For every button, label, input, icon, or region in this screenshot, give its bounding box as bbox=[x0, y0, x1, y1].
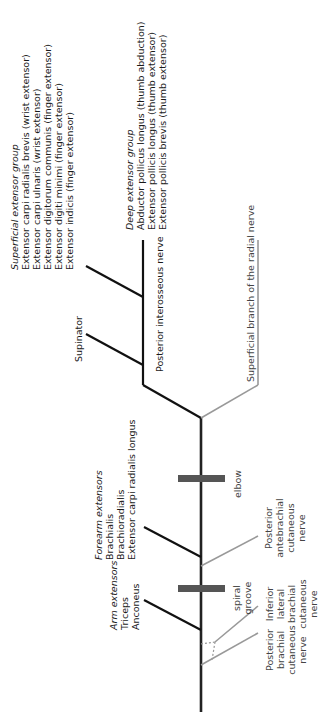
svg-text:groove: groove bbox=[242, 581, 253, 614]
forearm-extensors-label: Forearm extensors Brachialis Brachioradi… bbox=[93, 419, 137, 560]
superficial-group-branch bbox=[86, 266, 143, 297]
svg-text:Extensor pollicis brevis (thum: Extensor pollicis brevis (thumb extensor… bbox=[157, 35, 168, 230]
superficial-branch-label: Superficial branch of the radial nerve bbox=[245, 205, 256, 382]
posterior-antebrachial-cutaneous-label: Posterior antebrachial cutaneous nerve bbox=[263, 498, 307, 558]
svg-text:Triceps: Triceps bbox=[119, 597, 130, 631]
deep-branch-line bbox=[143, 385, 201, 418]
svg-text:Extensor digitorum communis (f: Extensor digitorum communis (finger exte… bbox=[42, 44, 53, 270]
svg-text:Superficial extensor group: Superficial extensor group bbox=[9, 144, 20, 270]
spiral-groove-label: spiral groove bbox=[231, 581, 253, 614]
svg-text:cutaneous: cutaneous bbox=[297, 579, 308, 628]
svg-text:Abductor pollicus longus (thu: Abductor pollicus longus (thumb abductio… bbox=[135, 21, 146, 230]
superficial-extensor-group-label: Superficial extensor group Extensor carp… bbox=[9, 44, 75, 270]
svg-text:Extensor pollicis longus (thum: Extensor pollicis longus (thumb extensor… bbox=[146, 32, 157, 230]
dashed-connector-h bbox=[201, 642, 215, 644]
svg-text:Forearm extensors: Forearm extensors bbox=[93, 470, 104, 560]
posterior-antebrachial-cutaneous-line bbox=[201, 536, 258, 566]
svg-text:Posterior: Posterior bbox=[263, 507, 274, 549]
svg-text:Extensor indicis (finger exten: Extensor indicis (finger extensor) bbox=[64, 112, 75, 270]
elbow-label: elbow bbox=[232, 470, 243, 498]
posterior-brachial-cutaneous-label: Posterior brachial cutaneous nerve bbox=[264, 625, 308, 674]
svg-text:lateral: lateral bbox=[275, 589, 286, 619]
svg-text:nerve: nerve bbox=[296, 514, 307, 541]
svg-text:cutaneous: cutaneous bbox=[286, 625, 297, 674]
svg-text:Extensor carpi ulnaris (wrist: Extensor carpi ulnaris (wrist extensor) bbox=[31, 88, 42, 270]
svg-text:Deep extensor group: Deep extensor group bbox=[124, 129, 135, 230]
svg-text:Extensor carpi radialis brevis: Extensor carpi radialis brevis (wrist ex… bbox=[20, 54, 31, 270]
radial-nerve-diagram: Superficial extensor group Extensor carp… bbox=[0, 0, 332, 728]
posterior-interosseous-nerve-label: Posterior interosseous nerve bbox=[154, 236, 165, 372]
svg-text:nerve: nerve bbox=[308, 590, 319, 617]
inferior-lateral-brachial-cutaneous-label: Inferior lateral brachial cutaneous nerv… bbox=[264, 579, 319, 628]
deep-extensor-group-label: Deep extensor group Abductor pollicus lo… bbox=[124, 21, 168, 230]
arm-extensors-label: Arm extensors Triceps Anconeus bbox=[108, 561, 141, 631]
superficial-branch-line bbox=[201, 385, 258, 418]
posterior-brachial-cutaneous-line bbox=[201, 633, 258, 665]
svg-text:spiral: spiral bbox=[231, 585, 242, 611]
arm-extensors-branch bbox=[144, 600, 201, 630]
svg-text:brachial: brachial bbox=[275, 631, 286, 669]
elbow-bar bbox=[178, 475, 225, 482]
spiral-groove-bar bbox=[178, 585, 225, 592]
svg-text:Extensor carpi radialis longus: Extensor carpi radialis longus bbox=[126, 419, 137, 560]
svg-text:Arm extensors: Arm extensors bbox=[108, 561, 119, 631]
svg-text:brachial: brachial bbox=[286, 585, 297, 623]
svg-text:Extensor digiti minimi (finger: Extensor digiti minimi (finger extensor) bbox=[53, 83, 64, 270]
svg-text:antebrachial: antebrachial bbox=[274, 498, 285, 558]
supinator-branch bbox=[86, 334, 143, 365]
svg-text:nerve: nerve bbox=[297, 636, 308, 663]
svg-text:Anconeus: Anconeus bbox=[130, 584, 141, 630]
svg-text:Brachialis: Brachialis bbox=[104, 514, 115, 560]
svg-text:Brachioradialis: Brachioradialis bbox=[115, 490, 126, 560]
svg-text:Posterior: Posterior bbox=[264, 629, 275, 671]
svg-text:cutaneous: cutaneous bbox=[285, 503, 296, 552]
svg-text:Inferior: Inferior bbox=[264, 587, 275, 621]
supinator-label: Supinator bbox=[73, 316, 84, 362]
forearm-extensors-branch bbox=[144, 527, 201, 557]
